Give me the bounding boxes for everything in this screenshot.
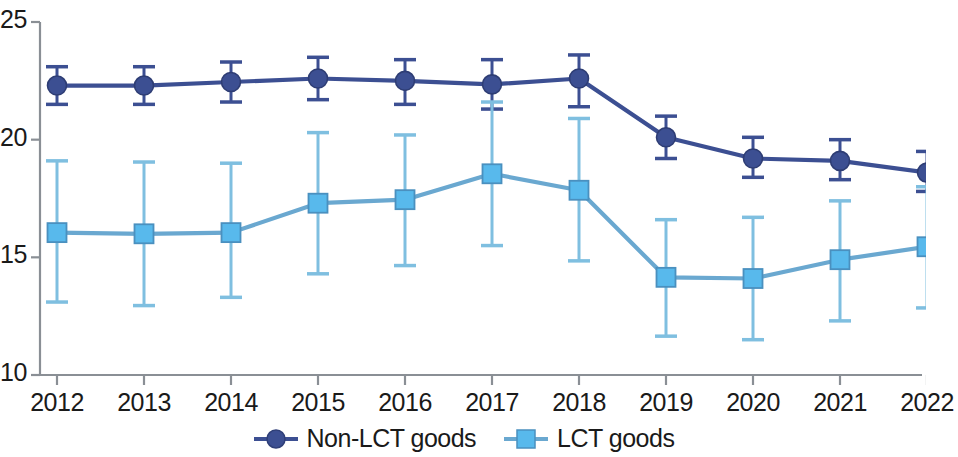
data-point-lct-goods: [135, 224, 154, 243]
data-point-non-lct-goods: [483, 75, 502, 94]
data-point-non-lct-goods: [309, 69, 328, 88]
y-axis-tick-label: 20: [0, 123, 26, 152]
data-point-non-lct-goods: [831, 151, 850, 170]
data-point-lct-goods: [918, 237, 927, 256]
data-point-non-lct-goods: [396, 71, 415, 90]
y-axis-tick-label: 10: [0, 358, 26, 387]
data-point-lct-goods: [309, 194, 328, 213]
legend-item-lct-goods: LCT goods: [502, 424, 674, 453]
data-point-non-lct-goods: [744, 149, 763, 168]
data-point-lct-goods: [483, 164, 502, 183]
data-point-lct-goods: [396, 190, 415, 209]
data-point-non-lct-goods: [657, 128, 676, 147]
data-point-lct-goods: [657, 268, 676, 287]
y-axis-tick-label: 25: [0, 5, 26, 34]
x-axis-tick-label: 2022: [877, 388, 958, 417]
data-point-non-lct-goods: [570, 69, 589, 88]
legend-label-non-lct-goods: Non-LCT goods: [307, 424, 477, 453]
y-axis-tick-label: 15: [0, 240, 26, 269]
legend-label-lct-goods: LCT goods: [557, 424, 674, 453]
legend-marker-circle-icon: [252, 427, 300, 451]
data-point-lct-goods: [570, 181, 589, 200]
x-axis-tick-label: 2015: [268, 388, 368, 417]
legend-item-non-lct-goods: Non-LCT goods: [252, 424, 477, 453]
x-axis-tick-label: 2017: [442, 388, 542, 417]
x-axis-tick-label: 2021: [790, 388, 890, 417]
x-axis-tick-label: 2012: [7, 388, 107, 417]
data-point-non-lct-goods: [135, 76, 154, 95]
x-axis-tick-label: 2018: [529, 388, 629, 417]
data-point-non-lct-goods: [222, 73, 241, 92]
data-point-lct-goods: [48, 223, 67, 242]
x-axis-tick-label: 2014: [181, 388, 281, 417]
data-point-lct-goods: [831, 250, 850, 269]
x-axis-tick-label: 2016: [355, 388, 455, 417]
data-point-lct-goods: [744, 269, 763, 288]
data-point-lct-goods: [222, 223, 241, 242]
x-axis-tick-label: 2019: [616, 388, 716, 417]
data-point-non-lct-goods: [48, 76, 67, 95]
data-point-non-lct-goods: [918, 163, 927, 182]
legend-marker-square-icon: [502, 427, 550, 451]
chart-legend: Non-LCT goods LCT goods: [0, 424, 926, 453]
x-axis-tick-label: 2020: [703, 388, 803, 417]
x-axis-tick-label: 2013: [94, 388, 194, 417]
